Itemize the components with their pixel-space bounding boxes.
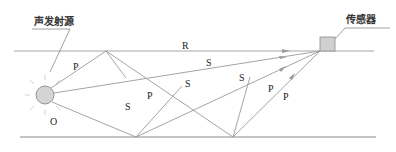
- source-circle: [36, 86, 54, 104]
- wave-label-r: R: [182, 41, 189, 51]
- sensor-label: 传感器: [346, 15, 376, 25]
- source-label: 声发射源: [34, 17, 74, 27]
- wave-label-p-3: P: [283, 92, 289, 102]
- ray-s-reflect-1: [106, 51, 126, 78]
- wave-label-p-1: P: [147, 91, 153, 101]
- wave-label-s-2: S: [185, 79, 191, 89]
- wave-label-s-3: S: [239, 73, 245, 83]
- wave-label-p-2: P: [268, 84, 274, 94]
- wave-label-s-1: S: [125, 102, 131, 112]
- wave-label-s-direct: S: [206, 58, 212, 68]
- sensor-leader-line: [334, 28, 345, 40]
- origin-label: O: [50, 117, 57, 127]
- ray-s-reflect-2: [136, 86, 182, 137]
- sensor-box: [320, 37, 335, 51]
- wave-rays: [51, 51, 320, 137]
- arrow-heads: [279, 49, 295, 80]
- arrow-icon: [282, 49, 290, 53]
- ray-p-reflect-1: [106, 51, 233, 137]
- ray-reflect-to-sensor-1: [136, 51, 320, 137]
- ray-p-reflect-to-sensor: [233, 51, 320, 137]
- arrow-icon: [279, 66, 286, 72]
- ray-p-direct-down: [52, 102, 136, 137]
- wave-label-p-up: P: [73, 62, 79, 72]
- acoustic-emission-diagram: 声发射源 传感器 O R S P S P S S P P: [0, 0, 396, 152]
